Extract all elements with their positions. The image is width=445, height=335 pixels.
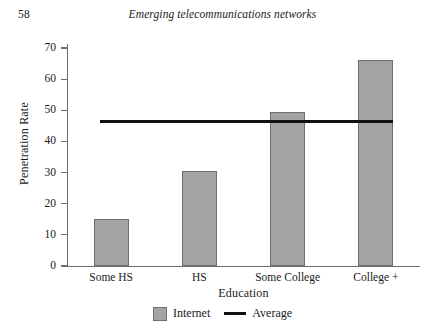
y-tick (61, 172, 67, 173)
y-tick-label: 10 (16, 229, 56, 241)
bar (94, 219, 129, 266)
average-line (100, 120, 393, 123)
y-tick (61, 203, 67, 204)
x-tick-label: College + (332, 271, 420, 284)
y-axis-title: Penetration Rate (17, 79, 32, 209)
y-tick-label: 70 (16, 42, 56, 54)
y-tick (61, 79, 67, 80)
x-axis-title: Education (67, 286, 420, 301)
y-tick (61, 234, 67, 235)
plot-area: 010203040506070 Some HSHSSome CollegeCol… (0, 30, 445, 275)
line-swatch-icon (224, 312, 246, 315)
legend-label-average: Average (252, 306, 292, 321)
legend-label-internet: Internet (173, 306, 210, 321)
y-tick (61, 110, 67, 111)
chart-legend: Internet Average (0, 306, 445, 321)
page-header: 58 Emerging telecommunications networks (0, 8, 445, 28)
x-tick-label: Some HS (67, 271, 155, 284)
bar (358, 60, 393, 266)
bar (182, 171, 217, 266)
y-tick (61, 47, 67, 48)
x-tick-label: Some College (244, 271, 332, 284)
bar-swatch-icon (153, 307, 167, 321)
legend-item-average: Average (224, 306, 292, 321)
legend-item-internet: Internet (153, 306, 210, 321)
running-head: Emerging telecommunications networks (0, 8, 445, 20)
x-axis-line (67, 266, 420, 267)
bar (270, 112, 305, 266)
y-axis-line (67, 44, 68, 267)
chart-figure: 010203040506070 Some HSHSSome CollegeCol… (0, 30, 445, 335)
y-tick (61, 141, 67, 142)
x-tick-label: HS (155, 271, 243, 284)
y-tick-label: 0 (16, 260, 56, 272)
y-tick (61, 265, 67, 266)
